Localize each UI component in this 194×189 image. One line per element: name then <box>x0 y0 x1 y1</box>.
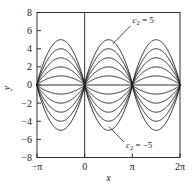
y-tick-label: 2 <box>27 61 32 72</box>
figure-container: −8−6−4−202468 −π0π2π x y c2 = 5c2 = −5 <box>0 0 194 189</box>
y-tick-label: 0 <box>27 79 32 90</box>
y-tick-label: −6 <box>21 134 32 145</box>
x-axis-title: x <box>105 172 111 183</box>
x-tick-label: π <box>130 161 135 172</box>
y-tick-label: −2 <box>21 98 32 109</box>
y-tick-label: 6 <box>27 25 32 36</box>
y-tick-label: −8 <box>21 152 32 163</box>
y-axis-title: y <box>1 85 12 91</box>
y-tick-label: 8 <box>27 7 32 18</box>
x-tick-label: 0 <box>82 161 87 172</box>
chart-plot: −8−6−4−202468 −π0π2π x y c2 = 5c2 = −5 <box>0 0 194 189</box>
y-tick-label: −4 <box>21 116 32 127</box>
annotation-text: c2 = 5 <box>132 15 154 26</box>
y-tick-label: 4 <box>27 43 32 54</box>
x-tick-label: −π <box>32 161 43 172</box>
x-tick-label: 2π <box>175 161 185 172</box>
